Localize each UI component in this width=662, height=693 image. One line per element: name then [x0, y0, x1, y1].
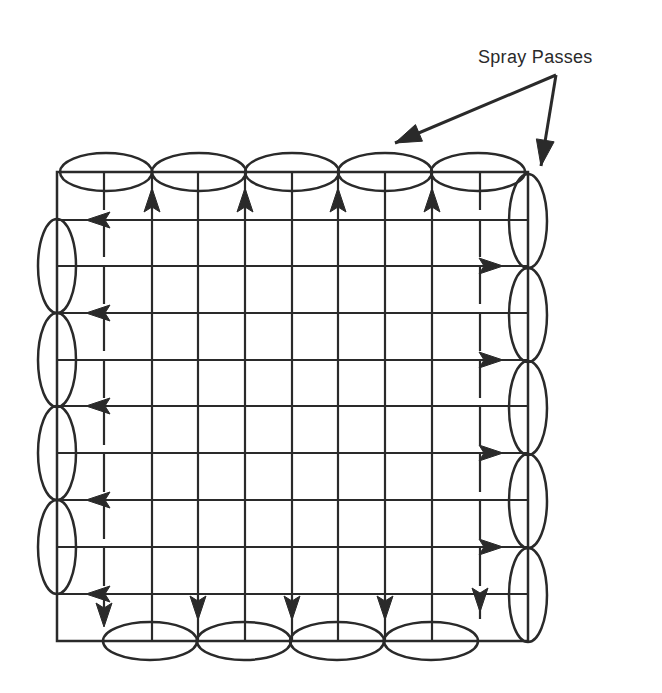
spray-pattern-drawing [0, 0, 662, 693]
spray-pass-diagram: Spray Passes [0, 0, 662, 693]
down-arrow-icon [472, 588, 488, 612]
callout-arrowhead-icon [536, 139, 554, 166]
spray-passes-label: Spray Passes [478, 47, 593, 68]
callout-arrowhead-icon [395, 125, 422, 143]
